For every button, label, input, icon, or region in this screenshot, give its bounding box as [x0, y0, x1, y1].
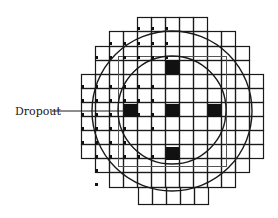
die-marker-dot	[165, 113, 168, 116]
die-marker-dot	[109, 85, 112, 88]
die-marker-dot	[165, 27, 168, 30]
die-marker-dot	[151, 27, 154, 30]
die-marker-dot	[109, 127, 112, 130]
die-marker-dot	[109, 155, 112, 158]
dropout-label: Dropout	[15, 105, 61, 118]
die-marker-dot	[123, 141, 126, 144]
die-marker-dot	[81, 113, 84, 116]
dropout-die	[208, 104, 221, 117]
die-marker-dot	[151, 113, 154, 116]
die-marker-dot	[165, 42, 168, 45]
die-marker-dot	[123, 42, 126, 45]
die-marker-dot	[109, 42, 112, 45]
die-marker-dot	[137, 27, 140, 30]
die-marker-dot	[123, 99, 126, 102]
die-marker-dot	[123, 155, 126, 158]
die-marker-dot	[137, 42, 140, 45]
die-marker-dot	[137, 85, 140, 88]
die-marker-dot	[151, 42, 154, 45]
die-marker-dot	[137, 113, 140, 116]
dropout-die	[166, 60, 179, 74]
die-marker-dot	[123, 127, 126, 130]
die-marker-dot	[151, 155, 154, 158]
die-marker-dot	[151, 127, 154, 130]
die-marker-dot	[137, 56, 140, 59]
die-marker-dot	[81, 85, 84, 88]
wafer-dropout-diagram: Dropout	[0, 0, 278, 218]
die-marker-dot	[151, 99, 154, 102]
die-marker-dot	[95, 169, 98, 172]
die-marker-dot	[81, 141, 84, 144]
die-marker-dot	[123, 56, 126, 59]
die-marker-dot	[81, 127, 84, 130]
die-marker-dot	[95, 127, 98, 130]
die-marker-dot	[95, 113, 98, 116]
die-marker-dot	[109, 99, 112, 102]
die-marker-dot	[137, 99, 140, 102]
dropout-die	[124, 104, 138, 117]
die-marker-dot	[137, 155, 140, 158]
die-marker-dot	[95, 183, 98, 186]
dropout-die	[166, 147, 179, 160]
die-marker-dot	[151, 85, 154, 88]
die-marker-dot	[109, 141, 112, 144]
die-marker-dot	[95, 99, 98, 102]
die-marker-dot	[95, 56, 98, 59]
die-marker-dot	[95, 155, 98, 158]
die-marker-dot	[109, 113, 112, 116]
die-marker-dot	[81, 99, 84, 102]
